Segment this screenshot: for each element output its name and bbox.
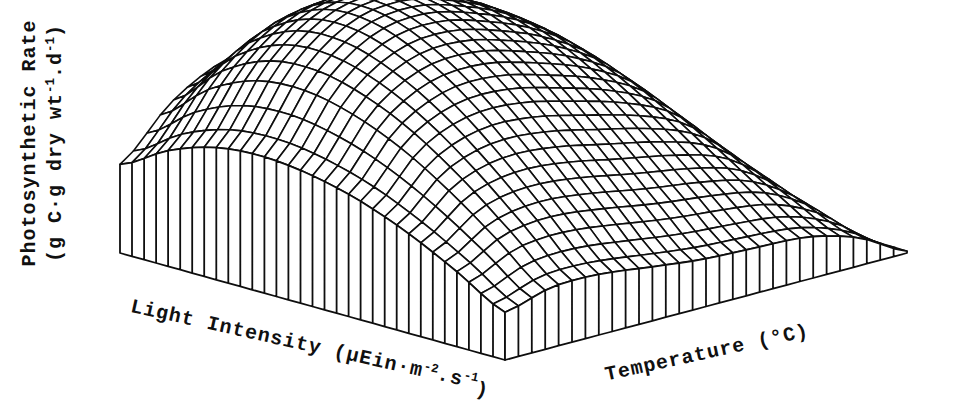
photosynthesis-surface-figure: Photosynthetic Rate (g C·g dry wt-1.d-1)… xyxy=(0,0,957,418)
z-axis-label-line1: Photosynthetic Rate xyxy=(17,19,43,266)
z-axis-label-units: (g C·g dry wt-1.d-1) xyxy=(43,19,71,266)
3d-surface-mesh xyxy=(0,0,957,418)
z-axis-label: Photosynthetic Rate (g C·g dry wt-1.d-1) xyxy=(17,19,71,266)
